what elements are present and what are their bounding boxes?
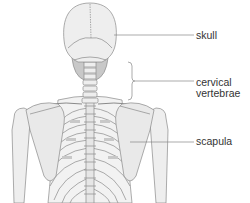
label-skull: skull [196, 30, 217, 41]
label-scapula: scapula [196, 136, 232, 147]
spine [84, 100, 96, 203]
cervical-vertebrae [82, 62, 98, 103]
cervical-bracket [128, 62, 135, 100]
skull [64, 3, 117, 62]
left-humerus [12, 108, 30, 203]
label-cervical-vertebrae: cervical vertebrae [196, 77, 240, 99]
label-cervical-line2: vertebrae [196, 88, 240, 99]
right-humerus [150, 108, 168, 203]
